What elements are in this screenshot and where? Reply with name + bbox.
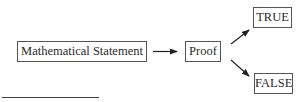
footnote-separator-rule <box>2 97 99 98</box>
arrow-proof-to-true-icon <box>231 30 249 44</box>
node-mathematical-statement: Mathematical Statement <box>17 41 147 62</box>
arrow-proof-to-false-icon <box>231 60 249 76</box>
node-false: FALSE <box>254 73 293 94</box>
node-true: TRUE <box>253 7 292 28</box>
node-proof: Proof <box>185 41 221 62</box>
